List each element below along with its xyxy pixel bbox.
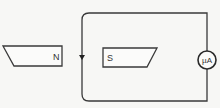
magnet-south-label: S bbox=[107, 53, 113, 63]
meter-label: µA bbox=[202, 56, 213, 65]
microammeter: µA bbox=[198, 51, 216, 69]
diagram-canvas: N S µA bbox=[0, 0, 220, 108]
magnet-north-label: N bbox=[53, 52, 60, 62]
magnet-south: S bbox=[103, 48, 157, 67]
arrow-down-icon bbox=[79, 55, 85, 60]
magnet-north: N bbox=[3, 46, 62, 66]
